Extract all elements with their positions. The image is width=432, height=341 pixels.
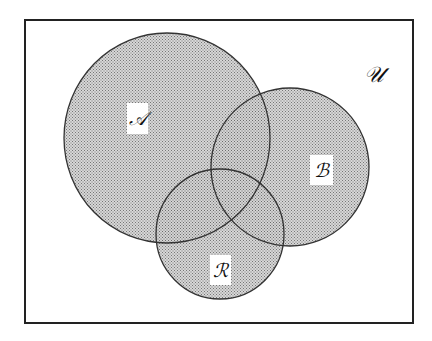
set-b-label: ℬ <box>314 159 331 181</box>
venn-diagram: 𝒜 ℬ ℛ 𝒰 <box>0 0 432 341</box>
set-r-label: ℛ <box>213 259 230 281</box>
